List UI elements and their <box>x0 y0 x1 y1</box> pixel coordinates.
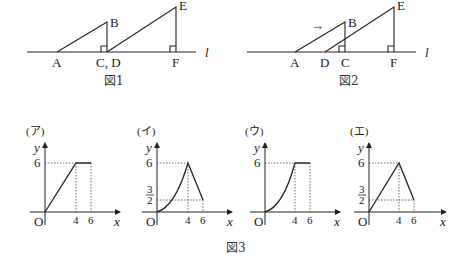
graph-label: (エ) <box>350 125 369 138</box>
right-angle-c <box>339 46 345 52</box>
graph-label: (ア) <box>26 125 45 138</box>
x-tick-6: 6 <box>307 214 313 226</box>
caption-fig1: 図1 <box>104 74 124 88</box>
right-angle-c <box>101 46 107 52</box>
origin-label: O <box>254 214 263 229</box>
origin-label: O <box>358 214 367 229</box>
x-tick-4: 4 <box>292 214 298 226</box>
figure-canvas: A C, D F B E l 図1 → A D C F B E l 図2 (ア)… <box>0 0 470 265</box>
label-a: A <box>290 55 300 70</box>
label-c: C <box>341 55 350 70</box>
x-axis-label: x <box>113 214 120 229</box>
x-tick-4: 4 <box>73 214 79 226</box>
x-axis-label: x <box>226 214 233 229</box>
label-cd: C, D <box>96 55 121 70</box>
graph-u: (ウ) y 6 O 4 6 x <box>245 125 340 229</box>
label-b: B <box>348 15 357 30</box>
x-axis-label: x <box>439 214 446 229</box>
x-tick-4: 4 <box>396 214 402 226</box>
x-axis-label: x <box>333 214 340 229</box>
x-tick-4: 4 <box>185 214 191 226</box>
right-angle-f <box>388 46 394 52</box>
x-tick-6: 6 <box>88 214 94 226</box>
graph-curve <box>157 163 203 212</box>
graph-line <box>45 163 91 212</box>
label-e: E <box>397 0 405 13</box>
label-a: A <box>52 55 62 70</box>
y-axis-label: y <box>356 140 364 155</box>
graph-label: (ウ) <box>245 125 264 138</box>
y-tick-6: 6 <box>146 155 153 170</box>
x-tick-6: 6 <box>411 214 417 226</box>
graph-e: (エ) y 6 3 2 O 4 6 x <box>350 125 446 229</box>
figure-2 <box>247 7 416 52</box>
graph-line <box>369 163 414 212</box>
graph-i: (イ) y 6 3 2 O 4 6 x <box>137 125 233 229</box>
y-tick-6: 6 <box>358 155 365 170</box>
graph-curve <box>265 163 310 212</box>
triangle-def <box>325 7 394 52</box>
caption-fig3: 図3 <box>226 241 246 255</box>
arrow-right-icon: → <box>311 18 324 33</box>
triangle-abc <box>57 22 107 52</box>
y-tick-6: 6 <box>34 155 41 170</box>
y-tick-6: 6 <box>254 155 261 170</box>
y-axis-label: y <box>144 140 152 155</box>
svg-text:2: 2 <box>359 194 365 206</box>
label-e: E <box>179 0 187 13</box>
y-tick-fraction: 3 2 <box>146 183 154 206</box>
caption-fig2: 図2 <box>339 74 359 88</box>
label-d: D <box>320 55 329 70</box>
label-b: B <box>110 15 119 30</box>
label-f: F <box>172 55 179 70</box>
label-l: l <box>425 45 429 60</box>
origin-label: O <box>34 214 43 229</box>
y-axis-label: y <box>32 140 40 155</box>
graph-a: (ア) y 6 O 4 6 x <box>26 125 120 229</box>
label-l: l <box>205 45 209 60</box>
y-axis-label: y <box>252 140 260 155</box>
svg-text:2: 2 <box>147 194 153 206</box>
x-tick-6: 6 <box>200 214 206 226</box>
label-f: F <box>390 55 397 70</box>
y-tick-fraction: 3 2 <box>358 183 366 206</box>
right-angle-f <box>170 46 176 52</box>
graph-label: (イ) <box>137 125 156 138</box>
origin-label: O <box>146 214 155 229</box>
